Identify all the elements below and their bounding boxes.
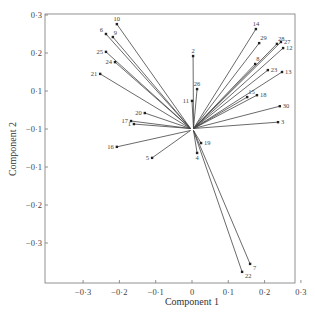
loading-vector xyxy=(194,43,260,128)
y-tick-label: 0·2 xyxy=(31,48,42,58)
loading-vector xyxy=(113,37,191,128)
vector-label: 26 xyxy=(194,80,201,87)
vector-endpoint-marker xyxy=(192,55,194,57)
vector-endpoint-marker xyxy=(246,96,248,98)
x-axis-title: Component 1 xyxy=(165,296,219,307)
vector-endpoint-marker xyxy=(105,51,107,53)
x-tick-label: 0·3 xyxy=(295,287,306,297)
vector-endpoint-marker xyxy=(256,94,258,96)
loading-vector xyxy=(194,72,283,129)
loading-vector xyxy=(194,48,284,128)
vector-endpoint-marker xyxy=(276,43,278,45)
loading-vector xyxy=(194,29,256,128)
vector-endpoint-marker xyxy=(200,142,202,144)
vector-endpoint-marker xyxy=(196,88,198,90)
y-axis-title: Component 2 xyxy=(7,122,18,176)
vector-endpoint-marker xyxy=(281,71,283,73)
vector-label: 3 xyxy=(281,118,284,125)
vector-label: 15 xyxy=(248,88,255,95)
vector-label: 14 xyxy=(253,20,260,27)
vector-endpoint-marker xyxy=(267,69,269,71)
vector-label: 30 xyxy=(283,102,290,109)
vector-label: 9 xyxy=(114,29,117,36)
vector-endpoint-marker xyxy=(133,123,135,125)
vector-label: 5 xyxy=(146,154,149,161)
x-tick-label: −0·1 xyxy=(148,287,164,297)
vector-endpoint-marker xyxy=(144,112,146,114)
vector-endpoint-marker xyxy=(241,271,243,273)
loading-vector xyxy=(194,131,243,272)
vector-label: 23 xyxy=(271,66,278,73)
vector-label: 8 xyxy=(256,55,259,62)
vector-label: 4 xyxy=(195,154,199,161)
x-tick-label: 0·2 xyxy=(259,287,270,297)
y-tick-label: −0·3 xyxy=(26,238,42,248)
loading-vector xyxy=(194,131,251,264)
vector-label: 16 xyxy=(107,143,114,150)
vector-endpoint-marker xyxy=(282,47,284,49)
vector-endpoint-marker xyxy=(99,73,101,75)
vector-label: 20 xyxy=(135,109,142,116)
vector-label: 10 xyxy=(114,15,121,22)
vector-endpoint-marker xyxy=(116,146,118,148)
y-tick-label: −0·1 xyxy=(26,162,42,172)
vector-label: 27 xyxy=(284,38,291,45)
vector-label: 22 xyxy=(245,272,252,279)
vector-label: 12 xyxy=(286,44,293,51)
vector-label: 28 xyxy=(278,35,285,42)
loading-vector xyxy=(194,89,198,128)
vector-endpoint-marker xyxy=(130,120,132,122)
loading-vector xyxy=(106,52,191,129)
x-tick-label: 0·1 xyxy=(223,287,234,297)
loading-vector xyxy=(194,44,277,129)
x-tick-label: −0·2 xyxy=(111,287,127,297)
vector-endpoint-marker xyxy=(112,36,114,38)
vector-label: 25 xyxy=(96,48,103,55)
loading-vector xyxy=(100,74,190,129)
x-axis: −0·3−0·2−0·100·10·20·3 xyxy=(75,280,307,297)
vector-label: 11 xyxy=(183,97,189,104)
y-tick-label: 0·3 xyxy=(31,10,42,20)
biplot-chart: −0·3−0·2−0·100·10·20·3 0·30·20·1−0·1−0·1… xyxy=(0,0,315,319)
y-tick-label: 0·1 xyxy=(31,86,42,96)
vector-label: 21 xyxy=(91,70,98,77)
y-tick-label: −0·1 xyxy=(26,124,42,134)
vector-label: 29 xyxy=(260,34,267,41)
vector-label: 17 xyxy=(122,117,129,124)
loading-vector xyxy=(117,24,191,128)
vector-endpoint-marker xyxy=(116,23,118,25)
loading-vectors: 1234567891011121314151617181920212223242… xyxy=(91,15,293,279)
vector-endpoint-marker xyxy=(105,33,107,35)
vector-label: 24 xyxy=(106,58,113,65)
vector-label: 7 xyxy=(253,264,257,271)
vector-label: 6 xyxy=(100,26,104,33)
vector-label: 18 xyxy=(260,91,267,98)
vector-endpoint-marker xyxy=(249,263,251,265)
vector-endpoint-marker xyxy=(279,105,281,107)
vector-label: 19 xyxy=(204,139,211,146)
vector-label: 2 xyxy=(191,47,194,54)
x-tick-label: −0·3 xyxy=(75,287,91,297)
y-tick-label: −0·2 xyxy=(26,200,42,210)
vector-endpoint-marker xyxy=(255,28,257,30)
vector-endpoint-marker xyxy=(191,100,193,102)
vector-label: 13 xyxy=(285,68,292,75)
vector-endpoint-marker xyxy=(151,157,153,159)
vector-endpoint-marker xyxy=(258,42,260,44)
vector-endpoint-marker xyxy=(277,121,279,123)
loading-vector xyxy=(194,70,268,128)
